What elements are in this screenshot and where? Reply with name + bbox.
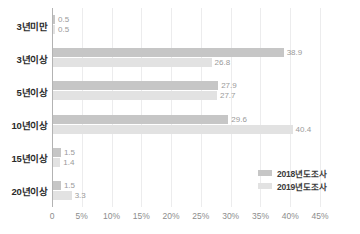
category-label: 3년미만 <box>0 19 48 33</box>
bar-chart: 0.50.538.926.827.927.729.640.41.51.41.53… <box>0 0 360 234</box>
bar <box>52 181 61 190</box>
bar <box>52 91 217 100</box>
x-tick-label: 15% <box>133 211 150 221</box>
x-tick-label: 10% <box>103 211 120 221</box>
x-tick-label: 25% <box>192 211 209 221</box>
bar-value-label: 27.9 <box>218 81 237 90</box>
legend-item[interactable]: 2018년도조사 <box>258 167 326 178</box>
bar-value-label: 29.6 <box>228 115 247 124</box>
bar-value-label: 1.4 <box>60 158 74 167</box>
bar <box>52 58 212 67</box>
chart-legend: 2018년도조사2019년도조사 <box>258 167 326 193</box>
bar <box>52 191 72 200</box>
bar <box>52 148 61 157</box>
x-tick-label: 45% <box>311 211 328 221</box>
bar-value-label: 27.7 <box>217 91 236 100</box>
category-label: 3년이상 <box>0 52 48 66</box>
bar-value-label: 26.8 <box>212 58 231 67</box>
legend-label: 2018년도조사 <box>277 167 326 179</box>
legend-item[interactable]: 2019년도조사 <box>258 180 326 191</box>
bar <box>52 158 60 167</box>
legend-swatch-icon <box>258 183 272 189</box>
bar-value-label: 40.4 <box>293 125 312 134</box>
x-tick-label: 20% <box>163 211 180 221</box>
legend-label: 2019년도조사 <box>277 180 326 192</box>
category-label: 10년이상 <box>0 118 48 132</box>
bar-value-label: 38.9 <box>284 48 303 57</box>
x-tick-label: 5% <box>76 211 88 221</box>
gridline <box>141 8 142 207</box>
bar-value-label: 0.5 <box>55 15 69 24</box>
x-tick-label: 30% <box>222 211 239 221</box>
gridline <box>171 8 172 207</box>
x-tick-label: 0 <box>50 211 55 221</box>
x-tick-label: 40% <box>282 211 299 221</box>
x-tick-label: 35% <box>252 211 269 221</box>
gridline <box>201 8 202 207</box>
bar <box>52 125 293 134</box>
bar-value-label: 0.5 <box>55 25 69 34</box>
category-label: 5년이상 <box>0 85 48 99</box>
bar <box>52 115 228 124</box>
x-axis: 05%10%15%20%25%30%35%40%45% <box>52 209 320 229</box>
bar-value-label: 1.5 <box>61 148 75 157</box>
y-axis-line <box>52 8 53 207</box>
category-label: 20년이상 <box>0 184 48 198</box>
bar-value-label: 1.5 <box>61 181 75 190</box>
gridline <box>112 8 113 207</box>
gridline <box>231 8 232 207</box>
category-label: 15년이상 <box>0 151 48 165</box>
legend-swatch-icon <box>258 170 272 176</box>
gridline <box>82 8 83 207</box>
bar-value-label: 3.3 <box>72 191 86 200</box>
bar <box>52 81 218 90</box>
bar <box>52 48 284 57</box>
